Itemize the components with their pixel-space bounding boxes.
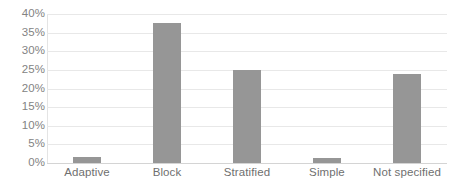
y-tick-label: 15%	[3, 101, 45, 113]
y-tick-label: 0%	[3, 157, 45, 169]
bar-adaptive	[73, 157, 101, 163]
bar-simple	[313, 158, 341, 163]
bar-not-specified	[393, 74, 421, 163]
y-tick-label: 30%	[3, 45, 45, 57]
bar-block	[153, 23, 181, 163]
y-tick-label: 20%	[3, 83, 45, 95]
x-label-adaptive: Adaptive	[47, 166, 127, 180]
y-tick-label: 5%	[3, 138, 45, 150]
y-tick-label: 35%	[3, 27, 45, 39]
plot-area	[47, 14, 447, 163]
bar-stratified	[233, 70, 261, 163]
x-label-not-specified: Not specified	[367, 166, 447, 180]
y-axis-tick-labels: 40%35%30%25%20%15%10%5%0%	[0, 0, 45, 190]
x-label-simple: Simple	[287, 166, 367, 180]
bar-slot	[367, 14, 447, 163]
bar-chart: 40%35%30%25%20%15%10%5%0% AdaptiveBlockS…	[0, 0, 457, 190]
x-label-block: Block	[127, 166, 207, 180]
bar-slot	[47, 14, 127, 163]
x-label-stratified: Stratified	[207, 166, 287, 180]
bar-slot	[287, 14, 367, 163]
gridline-0pct	[47, 163, 447, 164]
y-tick-label: 10%	[3, 120, 45, 132]
bar-slot	[127, 14, 207, 163]
x-axis-category-labels: AdaptiveBlockStratifiedSimpleNot specifi…	[47, 166, 447, 188]
bar-slot	[207, 14, 287, 163]
y-tick-label: 40%	[3, 8, 45, 20]
y-tick-label: 25%	[3, 64, 45, 76]
